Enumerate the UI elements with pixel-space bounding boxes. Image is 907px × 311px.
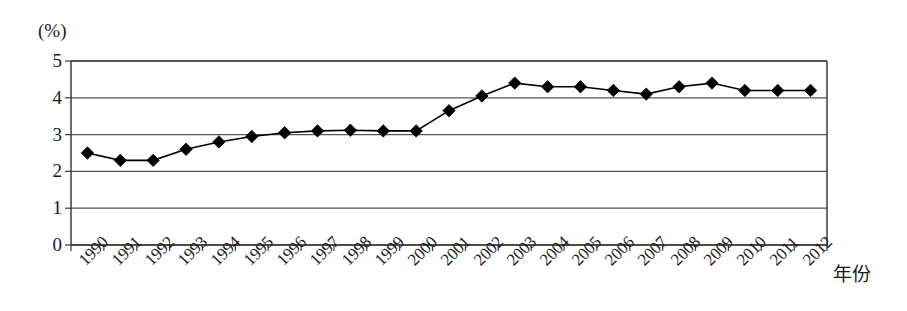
x-axis-tick-label: 2010 — [733, 233, 771, 271]
x-axis-tick-label: 2008 — [667, 233, 705, 271]
line-chart: (%) 012345 19901991199219931994199519961… — [0, 0, 907, 311]
x-axis-tick-label: 1992 — [141, 233, 179, 271]
x-axis-tick-label: 2001 — [437, 233, 475, 271]
x-axis-tick-label: 1995 — [240, 233, 278, 271]
x-axis-tick-label: 2004 — [536, 233, 574, 271]
x-axis-title: 年份 — [833, 259, 871, 286]
x-axis-tick-label: 2009 — [700, 233, 738, 271]
x-axis-tick-label: 2003 — [503, 233, 541, 271]
x-axis-tick-label: 2007 — [634, 233, 672, 271]
x-axis-tick-label: 1990 — [75, 233, 113, 271]
x-axis-tick-label: 1993 — [174, 233, 212, 271]
x-axis-tick-label: 1997 — [306, 233, 344, 271]
x-axis-tick-label: 1996 — [273, 233, 311, 271]
x-axis-tick-label: 2000 — [404, 233, 442, 271]
x-axis-tick-label: 1999 — [371, 233, 409, 271]
x-axis-tick-label: 2006 — [601, 233, 639, 271]
x-axis-tick-label: 2012 — [799, 233, 837, 271]
x-axis-tick-label: 1994 — [207, 233, 245, 271]
x-axis-tick-label: 2002 — [470, 233, 508, 271]
x-axis-tick-label: 2011 — [766, 233, 803, 270]
x-axis-tick-label: 1998 — [338, 233, 376, 271]
x-axis-tick-label: 1991 — [108, 233, 146, 271]
x-axis-tick-labels: 1990199119921993199419951996199719981999… — [0, 0, 907, 311]
x-axis-tick-label: 2005 — [568, 233, 606, 271]
